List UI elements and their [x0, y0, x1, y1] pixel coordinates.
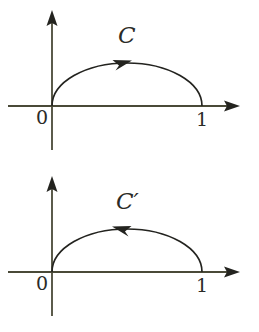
figure-panel-curve-c-prime: C′ 0 1 [0, 166, 259, 332]
y-axis [47, 10, 58, 150]
curve-direction-arrowhead [112, 226, 132, 237]
curve-arc [52, 63, 202, 106]
axis-tick-endpoint: 1 [196, 110, 208, 129]
figure-panel-curve-c: C 0 1 [0, 0, 259, 166]
axis-tick-endpoint: 1 [196, 276, 208, 295]
curve-direction-arrowhead [113, 60, 133, 71]
axis-tick-origin: 0 [36, 274, 48, 293]
curve-label-c-prime: C′ [116, 190, 139, 213]
axis-tick-origin: 0 [36, 108, 48, 127]
y-axis [47, 176, 58, 316]
curve-label-c: C [118, 24, 136, 47]
